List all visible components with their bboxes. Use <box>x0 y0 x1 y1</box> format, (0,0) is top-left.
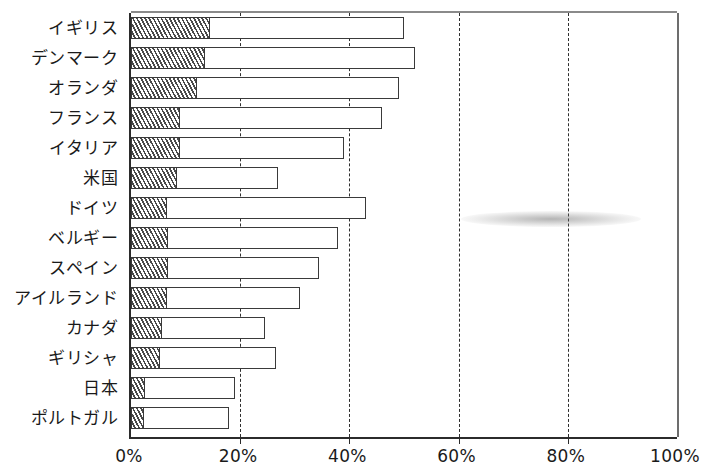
x-axis-tick <box>568 438 569 444</box>
category-label: スペイン <box>49 253 118 283</box>
bar-row <box>131 403 677 433</box>
bar-hatched-segment <box>131 167 177 189</box>
bar-chart: イギリスデンマークオランダフランスイタリア米国ドイツベルギースペインアイルランド… <box>0 0 703 473</box>
x-axis-tick-label: 60% <box>437 446 476 466</box>
x-axis-tick-label: 0% <box>115 446 143 466</box>
bar-hatched-segment <box>131 347 160 369</box>
bar-row <box>131 133 677 163</box>
bar-hatched-segment <box>131 17 210 39</box>
category-label: フランス <box>48 103 118 133</box>
bar-row <box>131 43 677 73</box>
bar-row <box>131 103 677 133</box>
plot-right-border <box>677 13 679 437</box>
plot-area <box>129 13 677 439</box>
category-label: ベルギー <box>48 223 118 253</box>
bar-row <box>131 223 677 253</box>
bar-hatched-segment <box>131 137 180 159</box>
category-label: アイルランド <box>14 283 118 313</box>
x-axis-tick-label: 20% <box>219 446 258 466</box>
bar-hatched-segment <box>131 317 162 339</box>
bar-hatched-segment <box>131 197 167 219</box>
bar-hatched-segment <box>131 407 144 429</box>
bar-row <box>131 193 677 223</box>
x-axis-tick-label: 80% <box>546 446 585 466</box>
category-label: イタリア <box>49 133 118 163</box>
bar-hatched-segment <box>131 227 168 249</box>
bar-hatched-segment <box>131 377 145 399</box>
category-label: ポルトガル <box>31 403 119 433</box>
category-label: イギリス <box>48 13 118 43</box>
category-label: オランダ <box>48 73 118 103</box>
bar-hatched-segment <box>131 257 168 279</box>
category-axis-labels: イギリスデンマークオランダフランスイタリア米国ドイツベルギースペインアイルランド… <box>0 13 124 437</box>
x-axis-tick <box>459 438 460 444</box>
category-label: ギリシャ <box>48 343 118 373</box>
bar-hatched-segment <box>131 107 180 129</box>
bar-row <box>131 373 677 403</box>
x-axis-tick <box>349 438 350 444</box>
category-label: 日本 <box>83 373 118 403</box>
bar-row <box>131 13 677 43</box>
bar-row <box>131 283 677 313</box>
bar-total-segment <box>131 407 229 429</box>
bar-hatched-segment <box>131 287 167 309</box>
x-axis-tick <box>240 438 241 444</box>
bar-row <box>131 343 677 373</box>
bar-row <box>131 313 677 343</box>
bar-row <box>131 163 677 193</box>
bar-hatched-segment <box>131 47 205 69</box>
category-label: 米国 <box>83 163 118 193</box>
x-axis-tick-label: 40% <box>328 446 367 466</box>
bar-hatched-segment <box>131 77 197 99</box>
bar-row <box>131 253 677 283</box>
bar-row <box>131 73 677 103</box>
x-axis-tick-label: 100% <box>650 446 700 466</box>
category-label: デンマーク <box>31 43 119 73</box>
category-label: カナダ <box>66 313 119 343</box>
category-label: ドイツ <box>66 193 119 223</box>
bar-total-segment <box>131 377 235 399</box>
